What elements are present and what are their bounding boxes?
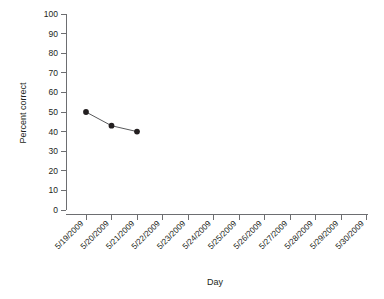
series-line — [86, 112, 137, 132]
y-tick-label-90: 90 — [49, 29, 59, 39]
x-axis-tick-labels: 5/19/2009 5/20/2009 5/21/2009 5/22/2009 … — [53, 219, 366, 251]
y-tick-label-70: 70 — [49, 68, 59, 78]
data-point — [134, 129, 140, 135]
y-tick-label-30: 30 — [49, 146, 59, 156]
y-axis-ticks — [61, 14, 66, 210]
y-tick-label-50: 50 — [49, 107, 59, 117]
y-tick-label-40: 40 — [49, 127, 59, 137]
data-point — [83, 109, 89, 115]
y-tick-label-20: 20 — [49, 166, 59, 176]
x-tick-label-11: 5/30/2009 — [334, 219, 366, 251]
y-axis-title: Percent correct — [18, 82, 28, 144]
x-axis-title: Day — [207, 277, 224, 287]
y-tick-label-60: 60 — [49, 87, 59, 97]
y-tick-label-100: 100 — [44, 9, 58, 19]
x-axis-ticks — [86, 214, 367, 220]
line-chart: Percent correct 100 90 80 70 60 50 40 30… — [0, 0, 384, 299]
y-tick-label-10: 10 — [49, 185, 59, 195]
data-series-percent-correct — [83, 109, 140, 134]
y-tick-label-80: 80 — [49, 48, 59, 58]
chart-container: Percent correct 100 90 80 70 60 50 40 30… — [0, 0, 384, 299]
y-tick-label-0: 0 — [53, 205, 58, 215]
data-point — [109, 123, 115, 129]
